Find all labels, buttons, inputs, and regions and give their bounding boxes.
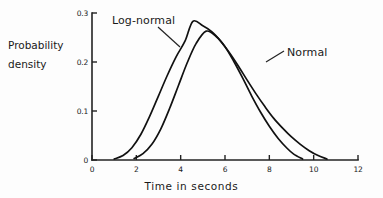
x-tick-label: 4 (178, 165, 183, 174)
x-tick-label: 0 (90, 165, 95, 174)
series-label-normal: Normal (287, 46, 327, 59)
y-tick-label: 0.1 (56, 107, 88, 116)
x-tick-label: 6 (223, 165, 228, 174)
y-tick-label: 0.2 (56, 58, 88, 67)
x-tick-label: 2 (134, 165, 139, 174)
series-label-log-normal: Log-normal (112, 14, 175, 27)
callout-leader-log-normal (158, 27, 180, 47)
x-tick-label: 12 (353, 165, 362, 174)
x-tick-label: 10 (309, 165, 318, 174)
x-axis-label: Time in seconds (0, 180, 383, 192)
callout-leader-normal (266, 51, 284, 62)
y-tick-label: 0.3 (56, 9, 88, 18)
plot-canvas (0, 0, 383, 198)
probability-density-figure: Probability density Time in seconds Log-… (0, 0, 383, 198)
y-axis-label: Probability density (8, 36, 64, 74)
y-tick-label: 0 (56, 156, 88, 165)
x-tick-label: 8 (267, 165, 272, 174)
y-axis-label-line1: Probability (8, 36, 64, 55)
